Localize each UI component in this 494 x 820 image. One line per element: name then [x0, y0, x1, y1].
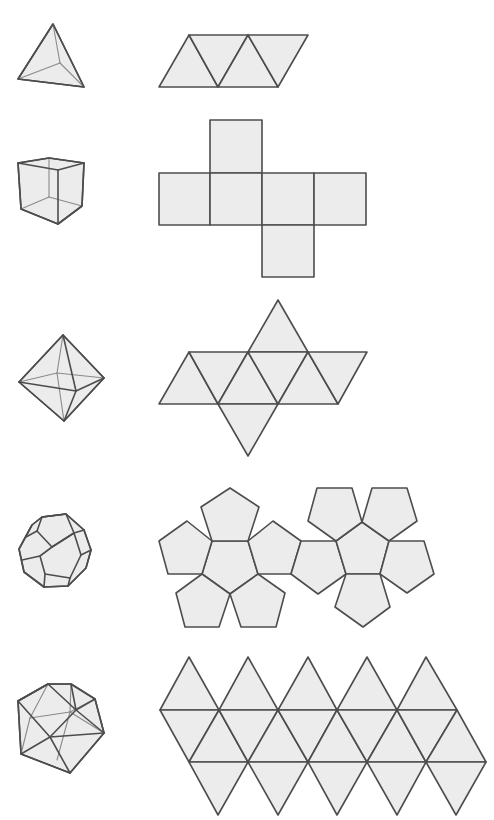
dodecahedron-net	[159, 488, 434, 627]
platonic-solids-diagram: Platonic solids and their nets	[0, 0, 494, 820]
tetrahedron-solid	[18, 24, 84, 87]
dodecahedron-solid	[19, 514, 91, 587]
octahedron-solid	[19, 335, 104, 421]
cube-solid	[18, 158, 84, 224]
icosahedron-solid	[18, 684, 104, 773]
icosahedron-net	[160, 657, 486, 815]
tetrahedron-net	[159, 35, 308, 87]
cube-net	[159, 120, 366, 277]
octahedron-net	[159, 300, 367, 456]
